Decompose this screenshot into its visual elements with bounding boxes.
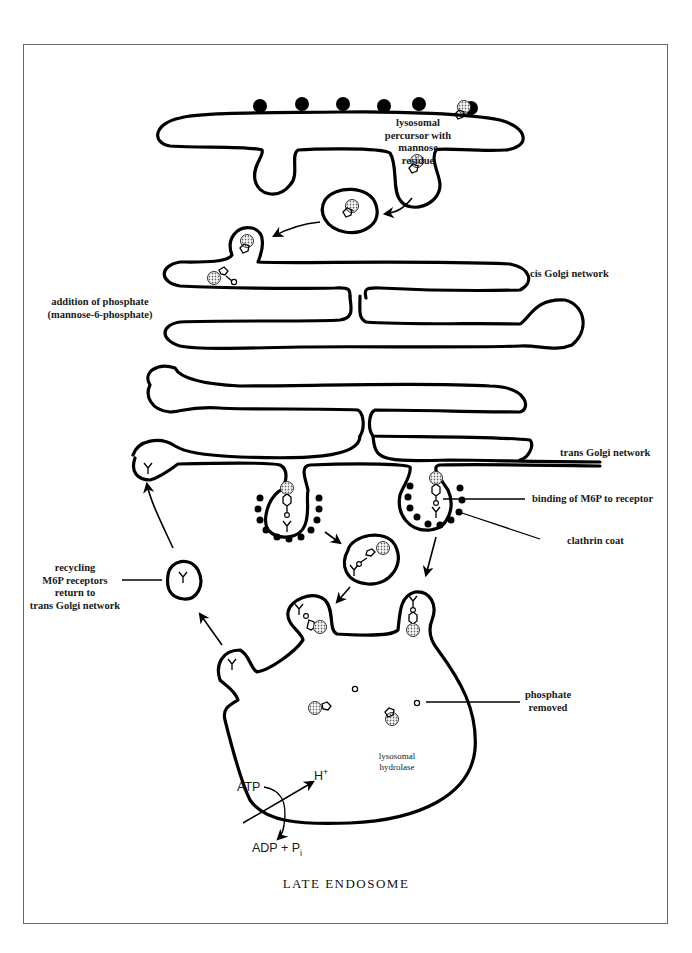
label-adp-sub: i (300, 848, 302, 858)
label-adp-pi: ADP + Pi (252, 842, 302, 859)
label-recycling-receptors: recycling M6P receptors return to trans … (25, 562, 125, 612)
label-line: (mannose-6-phosphate) (40, 309, 160, 322)
label-atp: ATP (237, 781, 260, 794)
cis-golgi-cisternae (164, 228, 583, 349)
label-h-sup: + (323, 767, 328, 777)
recycling-vesicle (122, 484, 222, 645)
trans-golgi-cisternae (133, 366, 600, 542)
label-line: M6P receptors (25, 575, 125, 588)
label-cis-golgi: cis Golgi network (530, 268, 609, 281)
label-line: lysosomal (372, 751, 422, 762)
label-trans-golgi: trans Golgi network (560, 447, 650, 460)
label-lysosomal-hydrolase: lysosomal hydrolase (372, 751, 422, 773)
late-endosome (218, 592, 520, 839)
label-line: hydrolase (372, 762, 422, 773)
transport-vesicle (274, 189, 412, 236)
label-line: mannose (376, 142, 460, 155)
label-adp: ADP + P (252, 841, 300, 855)
label-h-plus: H+ (314, 766, 328, 783)
label-line: removed (518, 702, 578, 715)
m6p-pathway-diagram (0, 0, 692, 953)
label-line: trans Golgi network (25, 600, 125, 613)
figure-title: LATE ENDOSOME (0, 876, 692, 892)
label-m6p-binding: binding of M6P to receptor (532, 493, 653, 506)
label-line: lysosomal (376, 117, 460, 130)
label-phosphate-removed: phosphate removed (518, 689, 578, 714)
label-phosphate-addition: addition of phosphate (mannose-6-phospha… (40, 296, 160, 321)
label-clathrin-coat: clathrin coat (567, 535, 624, 548)
label-line: recycling (25, 562, 125, 575)
label-line: phosphate (518, 689, 578, 702)
label-line: residue (376, 155, 460, 168)
label-h: H (314, 769, 323, 783)
label-line: return to (25, 587, 125, 600)
label-line: percursor with (376, 130, 460, 143)
label-lysosomal-precursor: lysosomal percursor with mannose residue (376, 117, 460, 167)
label-line: addition of phosphate (40, 296, 160, 309)
